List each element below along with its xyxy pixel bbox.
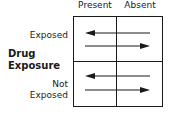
arrow-right-icon xyxy=(140,87,150,93)
arrows-row-not-exposed xyxy=(85,73,150,93)
grid-and-arrows xyxy=(0,0,170,117)
arrow-left-icon xyxy=(85,30,95,36)
grid xyxy=(74,17,163,107)
arrow-left-icon xyxy=(85,73,95,79)
arrow-right-icon xyxy=(140,43,150,49)
arrows-row-exposed xyxy=(85,30,150,49)
